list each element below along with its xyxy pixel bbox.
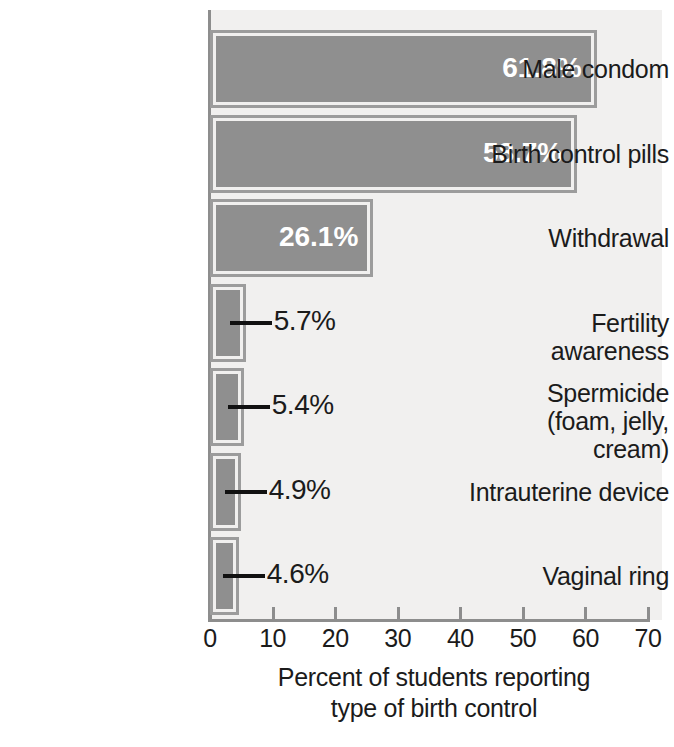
x-tick-label-0: 0 <box>180 624 240 653</box>
x-tick-40 <box>459 607 462 620</box>
x-tick-label-20: 20 <box>305 624 365 653</box>
x-tick-label-70: 70 <box>618 624 674 653</box>
x-tick-30 <box>397 607 400 620</box>
bar-value-label: 26.1% <box>279 221 358 253</box>
category-label: Withdrawal <box>469 224 669 252</box>
x-axis-title-line1: Percent of students reporting <box>208 662 660 693</box>
x-tick-label-10: 10 <box>243 624 303 653</box>
category-label: Birth control pills <box>469 140 669 168</box>
category-label-line: Vaginal ring <box>469 562 669 590</box>
category-label-line: Birth control pills <box>469 140 669 168</box>
x-tick-label-50: 50 <box>493 624 553 653</box>
category-label: Vaginal ring <box>469 562 669 590</box>
leader-line <box>228 405 270 409</box>
category-label-line: Fertility awareness <box>469 309 669 365</box>
x-tick-label-60: 60 <box>555 624 615 653</box>
category-label: Fertility awareness <box>469 309 669 365</box>
bar-value-label: 5.4% <box>272 389 334 421</box>
category-label-line: Male condom <box>469 55 669 83</box>
x-tick-70 <box>647 607 650 620</box>
x-axis-title-line2: type of birth control <box>208 693 660 724</box>
category-label-line: Intrauterine device <box>469 478 669 506</box>
leader-line <box>230 321 272 325</box>
category-label-line: Withdrawal <box>469 224 669 252</box>
x-axis-title: Percent of students reporting type of bi… <box>208 662 660 723</box>
x-tick-10 <box>272 607 275 620</box>
x-tick-label-30: 30 <box>368 624 428 653</box>
leader-line <box>225 490 267 494</box>
x-tick-20 <box>334 607 337 620</box>
category-label-line: (foam, jelly, cream) <box>469 407 669 463</box>
bar-value-label: 5.7% <box>274 305 336 337</box>
category-label: Intrauterine device <box>469 478 669 506</box>
bar: 26.1% <box>210 199 373 277</box>
category-label-line: Spermicide <box>469 379 669 407</box>
category-label: Spermicide(foam, jelly, cream) <box>469 379 669 463</box>
leader-line <box>223 574 265 578</box>
x-tick-60 <box>584 607 587 620</box>
x-tick-50 <box>522 607 525 620</box>
category-label: Male condom <box>469 55 669 83</box>
bar-value-label: 4.9% <box>269 474 331 506</box>
x-tick-label-40: 40 <box>430 624 490 653</box>
bar-value-label: 4.6% <box>267 558 329 590</box>
